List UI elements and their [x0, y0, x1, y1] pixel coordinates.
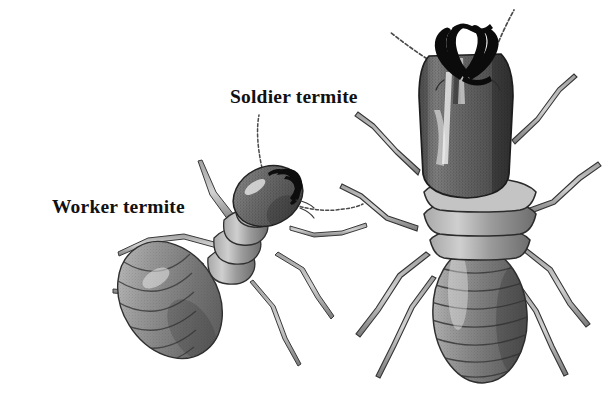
illustration-canvas: Worker termite Soldier termite — [0, 0, 611, 400]
worker-legs-right — [250, 223, 367, 366]
soldier-abdomen — [428, 244, 536, 388]
worker-termite — [96, 115, 367, 378]
soldier-head — [414, 23, 520, 206]
worker-termite-label: Worker termite — [52, 196, 185, 218]
soldier-termite-label: Soldier termite — [230, 86, 358, 108]
soldier-termite — [340, 10, 601, 388]
